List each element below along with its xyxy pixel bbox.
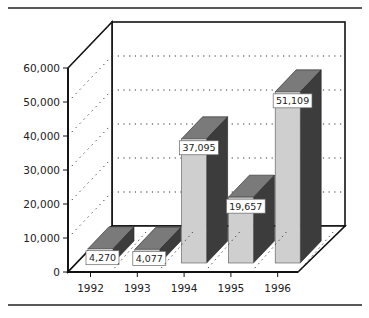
y-tick-label: 60,000	[23, 62, 60, 74]
data-label: 19,657	[229, 201, 262, 212]
chart: 010,00020,00030,00040,00050,00060,000199…	[0, 0, 369, 318]
y-tick-label: 50,000	[23, 96, 60, 108]
data-label: 4,077	[136, 253, 163, 264]
y-tick-label: 20,000	[23, 198, 60, 210]
bar-side	[207, 117, 228, 263]
bar-1994: 37,095	[180, 117, 228, 263]
data-label: 51,109	[276, 95, 309, 106]
bar-front	[275, 92, 300, 263]
y-tick-label: 10,000	[23, 232, 60, 244]
bar-1996: 51,109	[273, 70, 321, 263]
x-tick-label: 1993	[124, 282, 151, 294]
x-tick-label: 1996	[264, 282, 291, 294]
y-tick-label: 30,000	[23, 164, 60, 176]
x-tick-label: 1995	[218, 282, 245, 294]
x-tick-label: 1992	[77, 282, 104, 294]
y-tick-label: 0	[53, 266, 60, 278]
y-tick-label: 40,000	[23, 130, 60, 142]
x-tick-label: 1994	[171, 282, 198, 294]
y-axis: 010,00020,00030,00040,00050,00060,000	[23, 62, 68, 278]
data-label: 4,270	[89, 252, 116, 263]
data-label: 37,095	[182, 142, 215, 153]
x-axis: 19921993199419951996	[77, 272, 291, 294]
bar-front	[182, 139, 207, 263]
